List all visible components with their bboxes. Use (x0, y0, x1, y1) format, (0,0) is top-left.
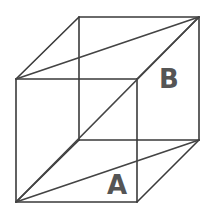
label-a: A (107, 172, 127, 198)
cube-diagram: A B (0, 0, 215, 220)
depth-edge-top-left (16, 17, 79, 79)
label-b: B (159, 66, 179, 92)
depth-edge-bottom-right (137, 140, 199, 202)
